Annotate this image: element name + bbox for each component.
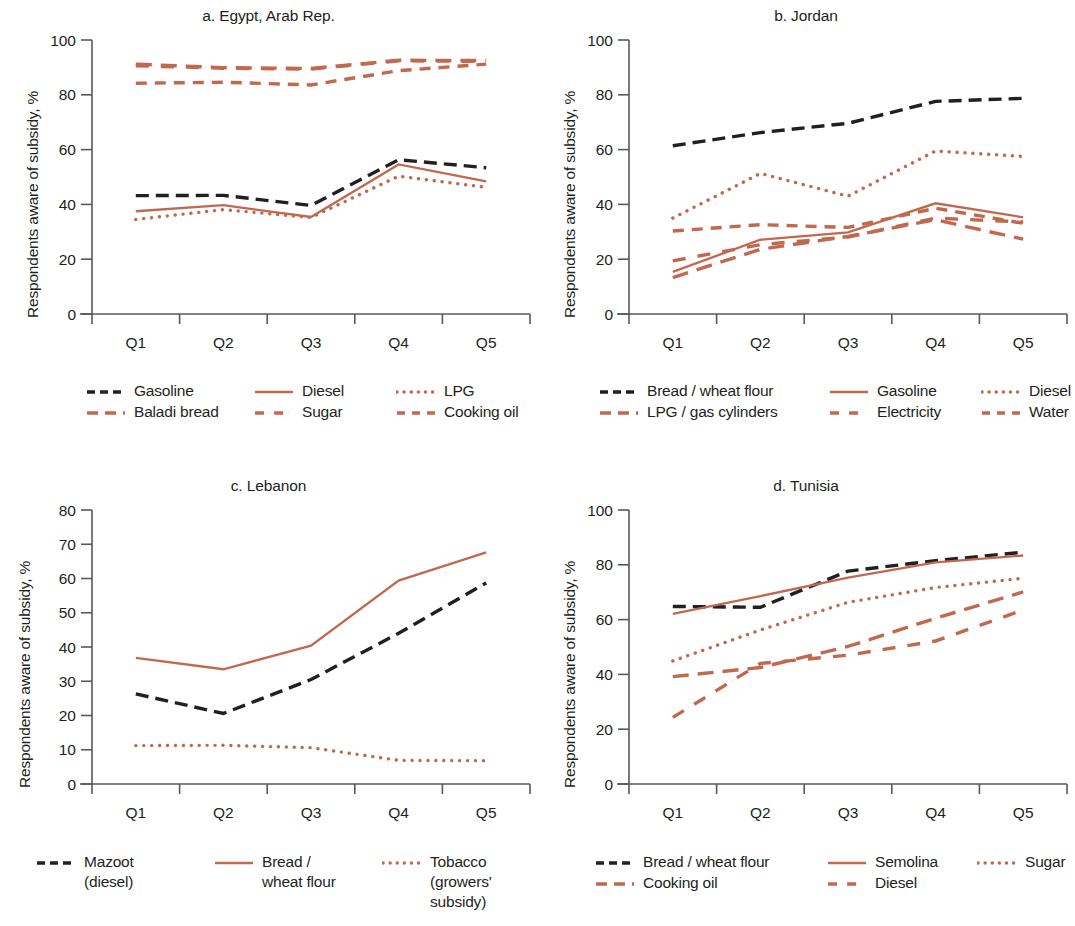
legend-item[interactable]: Bread / wheat flour xyxy=(599,381,829,402)
legend-line-swatch xyxy=(36,853,76,873)
x-tick-label: Q5 xyxy=(1013,334,1034,351)
legend-item[interactable]: Gasoline xyxy=(86,381,254,402)
legend-line-swatch xyxy=(977,853,1017,873)
panel-egypt: a. Egypt, Arab Rep. Respondents aware of… xyxy=(0,0,537,463)
y-tick-label: 60 xyxy=(59,570,77,587)
legend-item[interactable]: Water xyxy=(981,402,1073,423)
x-tick-label: Q1 xyxy=(125,804,146,821)
y-tick-label: 0 xyxy=(67,776,76,793)
figure-root: a. Egypt, Arab Rep. Respondents aware of… xyxy=(0,0,1075,926)
x-tick-label: Q2 xyxy=(213,334,234,351)
legend-item-label: Electricity xyxy=(877,402,941,422)
legend-item-label: Semolina xyxy=(875,852,938,872)
panel-title-lebanon: c. Lebanon xyxy=(0,476,537,496)
series-line xyxy=(673,218,1023,261)
legend-item[interactable]: Baladi bread xyxy=(86,402,254,423)
legend-line-swatch xyxy=(396,403,436,423)
plot-area-lebanon: 01020304050607080Q1Q2Q3Q4Q5 xyxy=(28,496,536,846)
y-tick-label: 80 xyxy=(596,556,614,573)
series-line xyxy=(136,552,486,669)
y-tick-label: 40 xyxy=(596,666,614,683)
y-tick-label: 60 xyxy=(596,611,614,628)
legend-line-swatch xyxy=(599,403,639,423)
series-line xyxy=(136,583,486,713)
y-tick-label: 20 xyxy=(596,251,614,268)
legend-line-swatch xyxy=(829,382,869,402)
x-tick-label: Q3 xyxy=(838,804,859,821)
y-tick-label: 40 xyxy=(59,196,77,213)
legend-item[interactable]: Diesel xyxy=(981,381,1073,402)
legend-item[interactable]: Mazoot (diesel) xyxy=(36,852,214,912)
series-line xyxy=(136,745,486,760)
x-tick-label: Q4 xyxy=(388,334,409,351)
legend-item-label: Bread / wheat flour xyxy=(262,852,336,892)
x-tick-label: Q1 xyxy=(662,334,683,351)
legend-item-label: Sugar xyxy=(302,402,342,422)
y-tick-label: 100 xyxy=(50,32,76,49)
legend-line-swatch xyxy=(827,853,867,873)
series-line xyxy=(673,592,1023,677)
legend-item[interactable]: Electricity xyxy=(829,402,981,423)
legend-item[interactable]: Bread / wheat flour xyxy=(214,852,382,912)
legend-item[interactable]: Cooking oil xyxy=(595,873,827,894)
panel-tunisia: d. Tunisia Respondents aware of subsidy,… xyxy=(537,470,1075,926)
legend-item-label: Baladi bread xyxy=(134,402,219,422)
plot-area-tunisia: 020406080100Q1Q2Q3Q4Q5 xyxy=(573,496,1073,846)
plot-area-egypt: 020406080100Q1Q2Q3Q4Q5 xyxy=(36,26,536,376)
series-line xyxy=(673,578,1023,661)
panel-lebanon: c. Lebanon Respondents aware of subsidy,… xyxy=(0,470,537,926)
legend-item-label: Sugar xyxy=(1025,852,1065,872)
x-tick-label: Q2 xyxy=(213,804,234,821)
legend-item-label: Gasoline xyxy=(877,381,937,401)
x-tick-label: Q3 xyxy=(301,334,322,351)
legend-item[interactable]: Bread / wheat flour xyxy=(595,852,827,873)
x-tick-label: Q2 xyxy=(750,804,771,821)
y-tick-label: 70 xyxy=(59,536,77,553)
legend-line-swatch xyxy=(595,874,635,894)
y-tick-label: 80 xyxy=(596,86,614,103)
legend-item[interactable]: Sugar xyxy=(254,402,396,423)
y-tick-label: 80 xyxy=(59,502,77,519)
y-tick-label: 40 xyxy=(59,639,77,656)
legend-egypt: GasolineDieselLPGBaladi breadSugarCookin… xyxy=(86,381,536,423)
x-tick-label: Q1 xyxy=(662,804,683,821)
x-tick-label: Q3 xyxy=(838,334,859,351)
x-tick-label: Q5 xyxy=(1013,804,1034,821)
legend-item[interactable]: Semolina xyxy=(827,852,977,873)
legend-item[interactable]: Sugar xyxy=(977,852,1073,873)
y-tick-label: 100 xyxy=(587,32,613,49)
legend-item[interactable]: Cooking oil xyxy=(396,402,536,423)
legend-line-swatch xyxy=(829,403,869,423)
series-line xyxy=(673,610,1023,717)
legend-line-swatch xyxy=(396,382,436,402)
legend-item[interactable]: Diesel xyxy=(254,381,396,402)
legend-item[interactable]: Tobacco (growers' subsidy) xyxy=(382,852,536,912)
x-tick-label: Q5 xyxy=(476,804,497,821)
panel-title-tunisia: d. Tunisia xyxy=(537,476,1075,496)
y-tick-label: 0 xyxy=(604,776,613,793)
legend-item-label: Bread / wheat flour xyxy=(647,381,773,401)
legend-line-swatch xyxy=(214,853,254,873)
y-tick-label: 60 xyxy=(596,141,614,158)
legend-line-swatch xyxy=(254,382,294,402)
y-tick-label: 80 xyxy=(59,86,77,103)
x-tick-label: Q1 xyxy=(125,334,146,351)
x-tick-label: Q4 xyxy=(925,334,946,351)
y-tick-label: 30 xyxy=(59,673,77,690)
x-tick-label: Q5 xyxy=(476,334,497,351)
legend-line-swatch xyxy=(86,403,126,423)
legend-item-label: Cooking oil xyxy=(643,873,717,893)
legend-item-label: Gasoline xyxy=(134,381,194,401)
legend-line-swatch xyxy=(599,382,639,402)
legend-item[interactable]: Gasoline xyxy=(829,381,981,402)
series-line xyxy=(673,98,1023,145)
y-tick-label: 40 xyxy=(596,196,614,213)
legend-item[interactable]: Diesel xyxy=(827,873,977,894)
legend-line-swatch xyxy=(981,382,1021,402)
y-tick-label: 0 xyxy=(67,306,76,323)
legend-line-swatch xyxy=(827,874,867,894)
legend-item[interactable]: LPG xyxy=(396,381,536,402)
x-tick-label: Q2 xyxy=(750,334,771,351)
legend-item[interactable]: LPG / gas cylinders xyxy=(599,402,829,423)
y-tick-label: 0 xyxy=(604,306,613,323)
